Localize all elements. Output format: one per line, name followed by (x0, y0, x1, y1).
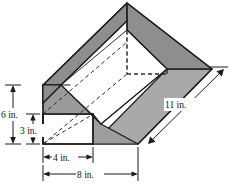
dimension-label-11in: 11 in. (165, 100, 186, 110)
dimension-width-inner: 4 in. (43, 147, 93, 164)
arrowhead-4in-right (87, 154, 94, 159)
arrowhead-8in-left (43, 171, 50, 176)
arrowhead-6in-down (10, 137, 16, 144)
arrowhead-6in-up (10, 85, 16, 92)
arrowhead-3in-down (30, 138, 35, 145)
arrowhead-4in-left (43, 154, 50, 159)
solid-prism (43, 3, 212, 144)
dimension-label-4in: 4 in. (53, 153, 70, 163)
dimension-label-3in: 3 in. (20, 126, 37, 136)
dimension-label-8in: 8 in. (77, 170, 94, 180)
arrowhead-3in-up (30, 114, 35, 121)
arrowhead-8in-right (132, 171, 139, 176)
geometry-figure: 6 in. 3 in. 4 in. (0, 0, 232, 187)
prism-diagram-svg: 6 in. 3 in. 4 in. (0, 0, 232, 187)
dimension-label-6in: 6 in. (1, 110, 18, 120)
